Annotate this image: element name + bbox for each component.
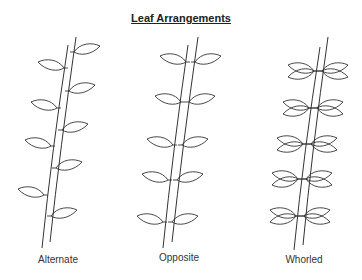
label-opposite: Opposite	[139, 252, 219, 263]
label-whorled: Whorled	[264, 254, 344, 265]
label-alternate: Alternate	[18, 254, 98, 265]
alternate-leaves	[18, 44, 100, 218]
leaf-arrangement-diagram	[0, 0, 362, 280]
opposite-stem	[163, 37, 198, 248]
whorled-leaves	[270, 63, 348, 224]
opposite-leaves	[137, 54, 221, 224]
